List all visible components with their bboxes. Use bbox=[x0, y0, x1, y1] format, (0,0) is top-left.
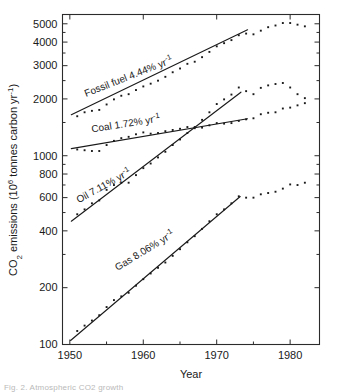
data-point bbox=[120, 295, 122, 297]
data-point bbox=[135, 285, 137, 287]
series-fossil-fuel bbox=[76, 22, 306, 117]
data-point bbox=[179, 139, 181, 141]
data-point bbox=[76, 115, 78, 117]
data-point bbox=[150, 273, 152, 275]
data-point bbox=[253, 197, 255, 199]
data-point bbox=[304, 182, 306, 184]
data-point bbox=[76, 149, 78, 151]
data-point bbox=[245, 33, 247, 35]
data-point bbox=[267, 192, 269, 194]
annotation-oil: Oil 7.11% yr-1 bbox=[73, 164, 132, 205]
data-point bbox=[157, 80, 159, 82]
y-axis-title: CO2 emissions (106 tonnes carbon yr-1) bbox=[6, 84, 24, 276]
data-point bbox=[128, 292, 130, 294]
data-point bbox=[267, 26, 269, 28]
data-point bbox=[84, 325, 86, 327]
data-point bbox=[282, 188, 284, 190]
data-point bbox=[186, 241, 188, 243]
series-gas bbox=[76, 182, 306, 332]
data-point bbox=[275, 25, 277, 27]
data-point bbox=[91, 202, 93, 204]
data-point bbox=[150, 133, 152, 135]
data-point bbox=[216, 103, 218, 105]
series-annotations: Fossil fuel 4.44% yr-1Coal 1.72% yr-1Oil… bbox=[73, 52, 176, 273]
y-axis-tick-labels: 10020040060080010002000300040005000 bbox=[33, 18, 57, 351]
data-point bbox=[150, 83, 152, 85]
figure-container: 10020040060080010002000300040005000 1950… bbox=[0, 0, 344, 392]
data-point bbox=[260, 30, 262, 32]
annotation-gas: Gas 8.06% yr-1 bbox=[112, 226, 176, 273]
data-point bbox=[223, 208, 225, 210]
x-tick-label-1960: 1960 bbox=[131, 349, 155, 361]
data-point bbox=[76, 330, 78, 332]
data-point bbox=[223, 42, 225, 44]
data-point bbox=[289, 22, 291, 24]
data-point bbox=[106, 104, 108, 106]
data-point bbox=[245, 118, 247, 120]
data-point bbox=[245, 197, 247, 199]
data-point bbox=[238, 87, 240, 89]
data-point bbox=[128, 182, 130, 184]
data-point bbox=[120, 95, 122, 97]
data-point bbox=[223, 98, 225, 100]
data-point bbox=[304, 97, 306, 99]
data-point bbox=[106, 144, 108, 146]
y-tick-label-600: 600 bbox=[39, 191, 57, 203]
data-point bbox=[223, 123, 225, 125]
data-point bbox=[260, 87, 262, 89]
data-point bbox=[201, 56, 203, 58]
x-tick-label-1970: 1970 bbox=[204, 349, 228, 361]
data-point bbox=[208, 124, 210, 126]
y-tick-label-400: 400 bbox=[39, 225, 57, 237]
data-point bbox=[267, 112, 269, 114]
data-point bbox=[113, 140, 115, 142]
y-tick-label-100: 100 bbox=[39, 338, 57, 350]
data-point bbox=[98, 199, 100, 201]
data-point bbox=[157, 132, 159, 134]
data-point bbox=[304, 102, 306, 104]
data-point bbox=[172, 129, 174, 131]
data-point bbox=[245, 90, 247, 92]
data-point bbox=[164, 76, 166, 78]
data-point bbox=[297, 24, 299, 26]
x-axis-tick-labels: 1950196019701980 bbox=[58, 349, 303, 361]
data-point bbox=[106, 306, 108, 308]
data-point bbox=[216, 213, 218, 215]
data-point bbox=[120, 137, 122, 139]
data-point bbox=[91, 110, 93, 112]
data-point bbox=[135, 89, 137, 91]
y-tick-label-5000: 5000 bbox=[33, 18, 57, 30]
data-point bbox=[164, 130, 166, 132]
data-point bbox=[157, 156, 159, 158]
data-point bbox=[260, 193, 262, 195]
data-point bbox=[179, 248, 181, 250]
y-tick-label-200: 200 bbox=[39, 281, 57, 293]
data-point bbox=[260, 113, 262, 115]
data-point bbox=[113, 299, 115, 301]
data-point bbox=[238, 195, 240, 197]
data-point bbox=[238, 120, 240, 122]
data-point bbox=[135, 174, 137, 176]
data-point bbox=[84, 149, 86, 151]
data-point bbox=[297, 93, 299, 95]
data-point bbox=[289, 183, 291, 185]
y-tick-label-3000: 3000 bbox=[33, 59, 57, 71]
annotation-coal: Coal 1.72% yr-1 bbox=[90, 110, 161, 134]
data-point bbox=[275, 111, 277, 113]
data-point bbox=[186, 132, 188, 134]
data-point bbox=[91, 150, 93, 152]
y-tick-label-2000: 2000 bbox=[33, 93, 57, 105]
data-point bbox=[142, 167, 144, 169]
data-point bbox=[201, 119, 203, 121]
data-point bbox=[230, 202, 232, 204]
data-point bbox=[267, 84, 269, 86]
co2-emissions-chart: 10020040060080010002000300040005000 1950… bbox=[0, 0, 344, 392]
data-point bbox=[172, 144, 174, 146]
data-point bbox=[253, 117, 255, 119]
data-point bbox=[297, 184, 299, 186]
data-point bbox=[201, 127, 203, 129]
data-point bbox=[304, 25, 306, 27]
data-point bbox=[201, 228, 203, 230]
figure-caption: Fig. 2. Atmospheric CO2 growth bbox=[4, 383, 123, 392]
data-point bbox=[157, 267, 159, 269]
